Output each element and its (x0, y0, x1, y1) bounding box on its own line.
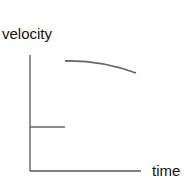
high-velocity-curve (65, 61, 136, 73)
velocity-time-graph (0, 0, 188, 185)
